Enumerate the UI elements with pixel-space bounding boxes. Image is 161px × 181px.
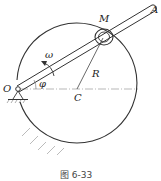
angular-velocity-arrow-icon: [41, 61, 54, 76]
label-A: A: [150, 4, 158, 15]
mechanism-diagram: O A M C R ω φ 图 6-33: [0, 0, 161, 181]
label-M: M: [98, 13, 110, 24]
radius-line: [77, 38, 103, 89]
figure-caption: 图 6-33: [60, 170, 92, 180]
angle-phi-arc: [34, 80, 36, 89]
label-omega: ω: [45, 49, 53, 60]
label-R: R: [91, 68, 100, 79]
label-O: O: [3, 83, 11, 94]
label-phi: φ: [39, 78, 46, 89]
label-C: C: [74, 92, 82, 103]
rod-OA: [17, 5, 156, 92]
